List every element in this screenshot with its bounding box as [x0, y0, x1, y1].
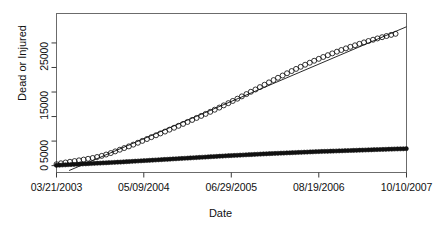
x-tick-label: 08/19/2006 — [293, 181, 345, 193]
x-tick-label: 05/09/2004 — [118, 181, 170, 193]
x-axis-title: Date — [0, 207, 441, 219]
y-axis-title: Dead or Injured — [16, 18, 28, 108]
chart-plot-area — [0, 0, 441, 229]
x-axis-ticks — [57, 173, 407, 178]
series-injured-points — [54, 31, 398, 166]
data-point-injured — [266, 80, 271, 85]
y-axis-ticks — [52, 43, 57, 166]
chart-figure: 03/21/200305/09/200406/29/200508/19/2006… — [0, 0, 441, 229]
x-tick-label: 10/10/2007 — [381, 181, 433, 193]
data-point-dead — [404, 147, 408, 151]
y-tick-label: 5000 — [38, 140, 50, 186]
y-tick-label: 15000 — [38, 91, 50, 137]
x-tick-label: 06/29/2005 — [206, 181, 258, 193]
y-tick-label: 25000 — [38, 42, 50, 88]
